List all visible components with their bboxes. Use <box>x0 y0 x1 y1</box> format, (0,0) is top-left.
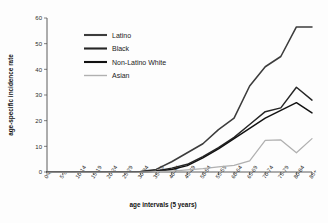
legend-label-asian: Asian <box>112 72 130 79</box>
y-tick-label: 50 <box>35 41 42 47</box>
series-line-black <box>47 87 312 172</box>
series-line-non-latino-white <box>47 103 312 172</box>
y-tick-label: 30 <box>35 92 42 98</box>
x-axis-title: age intervals (5 years) <box>129 201 196 209</box>
y-tick-group: 0102030405060 <box>35 15 47 175</box>
y-axis-group: 0102030405060 <box>35 15 47 175</box>
x-tick-label: 5-9 <box>58 170 68 180</box>
y-tick-label: 20 <box>35 118 42 124</box>
y-tick-label: 60 <box>35 15 42 21</box>
chart-legend: LatinoBlackNon-Latino WhiteAsian <box>84 32 166 80</box>
x-tick-label: 0-4 <box>43 170 53 180</box>
y-axis-title: age-specific incidence rate <box>7 54 15 136</box>
line-chart: 0102030405060 0-45-910-1415-1920-2425-29… <box>0 0 328 223</box>
legend-label-latino: Latino <box>112 32 131 39</box>
legend-label-black: Black <box>112 45 130 52</box>
y-tick-label: 10 <box>35 144 42 150</box>
x-tick-label: 85+ <box>308 168 318 179</box>
y-tick-label: 0 <box>39 169 43 175</box>
chart-container: 0102030405060 0-45-910-1415-1920-2425-29… <box>0 0 328 223</box>
legend-label-non-latino-white: Non-Latino White <box>112 59 166 66</box>
y-tick-label: 40 <box>35 67 42 73</box>
